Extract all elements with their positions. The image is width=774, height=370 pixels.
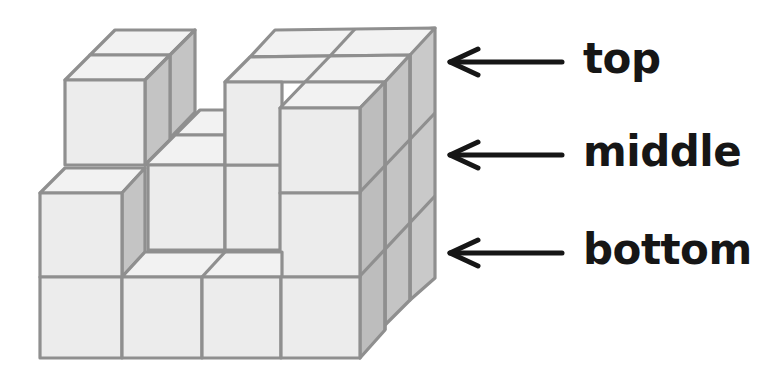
right-mid-side-face (385, 55, 410, 325)
arrows (450, 49, 562, 266)
bottom-cube-2-front-face (122, 277, 202, 358)
left-middle-front-face (40, 193, 122, 277)
bottom-cube-1-front-face (40, 277, 122, 358)
bottom-cube-3-front-face (202, 277, 281, 358)
left-top-front-face (65, 80, 145, 165)
right-top-front-face (280, 108, 360, 193)
bottom-cube-4-front-face (281, 277, 360, 358)
label-middle: middle (583, 131, 741, 173)
right-middle-front-face (280, 193, 360, 277)
cube-structure (40, 28, 435, 358)
back-right-side-face (410, 28, 435, 300)
label-top: top (583, 38, 661, 80)
arrow-middle (450, 142, 562, 168)
center-right-middle-front-face (225, 165, 282, 250)
arrow-top (450, 49, 562, 75)
bottom-center-top-face (122, 252, 282, 277)
center-middle-front-face (148, 165, 225, 250)
arrow-bottom (450, 240, 562, 266)
label-bottom: bottom (583, 229, 752, 271)
right-front-side-face (360, 82, 385, 358)
right-top-left-front-face (225, 82, 282, 165)
